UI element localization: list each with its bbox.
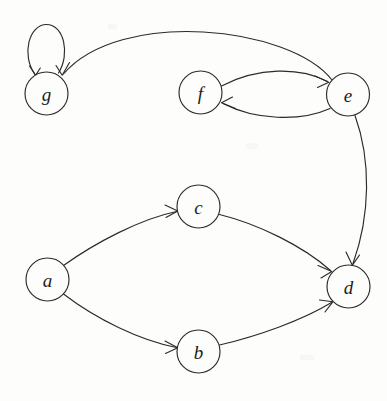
graph-canvas: gfecadb (0, 0, 387, 401)
node-d[interactable]: d (327, 265, 370, 308)
edge-line (64, 212, 177, 266)
edge-b-to-d (220, 300, 333, 345)
nodes-layer: gfecadb (25, 71, 370, 373)
edge-line (223, 104, 330, 118)
node-label: c (194, 197, 203, 218)
node-b[interactable]: b (177, 330, 220, 373)
edge-a-to-b (64, 294, 178, 354)
arrowhead-icon (165, 341, 178, 354)
node-a[interactable]: a (26, 258, 69, 301)
node-label: a (43, 270, 53, 291)
edge-line (222, 71, 328, 86)
edge-line (28, 25, 65, 75)
edge-f-to-e (222, 71, 329, 87)
edge-line (353, 116, 367, 264)
node-label: g (42, 84, 52, 105)
edge-a-to-c (64, 205, 178, 266)
edge-c-to-d (220, 215, 332, 279)
edge-line (64, 294, 177, 348)
node-c[interactable]: c (177, 185, 220, 228)
directed-graph-figure: gfecadb (0, 0, 387, 401)
edge-g-to-g (28, 25, 65, 76)
node-e[interactable]: e (327, 73, 370, 116)
node-g[interactable]: g (25, 72, 68, 115)
edge-e-to-d (346, 116, 367, 266)
node-label: b (194, 342, 204, 363)
node-f[interactable]: f (179, 71, 222, 114)
edge-line (220, 215, 331, 271)
node-label: e (344, 85, 352, 106)
node-label: d (344, 277, 354, 298)
edge-e-to-f (222, 97, 331, 117)
edge-line (220, 303, 332, 346)
arrowhead-icon (315, 76, 329, 88)
